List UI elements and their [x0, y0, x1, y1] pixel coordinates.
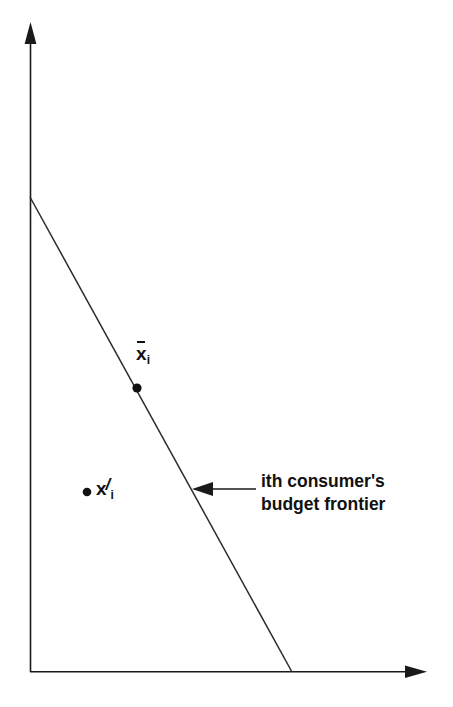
- label-x-bar-i-base: x: [136, 343, 147, 364]
- budget-frontier-caption: ith consumer's budget frontier: [261, 470, 385, 516]
- budget-frontier-callout-arrow: [192, 482, 256, 496]
- overbar-glyph: [137, 341, 145, 343]
- y-axis-arrowhead-icon: [25, 22, 37, 44]
- label-x-prime-i: x/i: [96, 476, 114, 501]
- x-axis: [30, 666, 427, 678]
- label-x-bar-i: x i: [136, 344, 150, 366]
- budget-frontier-segment: [30, 197, 292, 672]
- callout-arrowhead-icon: [192, 482, 213, 496]
- x-axis-arrowhead-icon: [405, 666, 427, 678]
- label-x-prime-i-prime: /: [106, 475, 111, 494]
- figure-canvas: [0, 0, 453, 707]
- caption-line-2: budget frontier: [261, 493, 385, 516]
- label-x-prime-i-subscript: i: [111, 488, 114, 502]
- point-x-prime-i-marker: [83, 488, 92, 497]
- overbar-group: x: [136, 344, 147, 363]
- caption-line-1: ith consumer's: [261, 470, 385, 493]
- budget-frontier-figure: - - x i x/i: [0, 0, 453, 707]
- label-x-bar-i-subscript: i: [147, 353, 150, 367]
- y-axis: [25, 22, 37, 672]
- point-x-bar-i-marker: [132, 383, 141, 392]
- budget-frontier-line: [30, 197, 292, 672]
- label-x-prime-i-base: x: [96, 478, 107, 499]
